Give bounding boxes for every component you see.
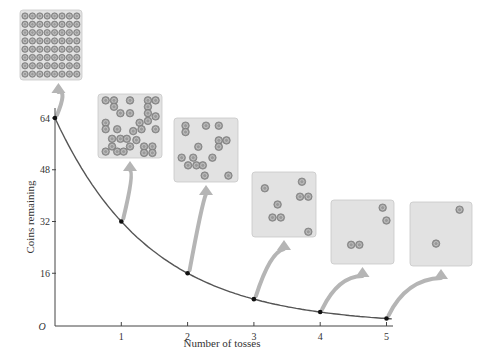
origin-label: O	[38, 321, 45, 332]
coin-decay-chart: 1234516324864 O Number of tosses Coins r…	[0, 0, 491, 364]
data-point	[318, 310, 323, 315]
coin-icon	[37, 29, 43, 35]
coin-trays	[20, 10, 472, 266]
coin-icon	[37, 46, 43, 52]
coin-icon	[201, 172, 209, 180]
coin-icon	[29, 21, 35, 27]
callout-arrow	[256, 249, 284, 296]
coin-icon	[44, 13, 50, 19]
data-point	[119, 219, 124, 224]
coin-icon	[51, 54, 57, 60]
coin-icon	[37, 63, 43, 69]
coin-tray-toss-2	[174, 118, 238, 182]
coin-icon	[29, 46, 35, 52]
callout-arrow	[123, 170, 131, 219]
coin-icon	[102, 125, 110, 133]
coin-icon	[51, 71, 57, 77]
arrowhead-icon	[123, 161, 137, 171]
coin-icon	[209, 154, 217, 162]
coin-icon	[223, 137, 231, 145]
coin-icon	[59, 29, 65, 35]
y-tick-label: 32	[40, 216, 50, 227]
coin-icon	[66, 63, 72, 69]
coin-icon	[66, 71, 72, 77]
coin-icon	[37, 13, 43, 19]
arrowhead-icon	[51, 83, 65, 93]
coin-icon	[261, 184, 269, 192]
coin-icon	[74, 29, 80, 35]
coin-icon	[44, 63, 50, 69]
coin-icon	[22, 46, 28, 52]
x-tick-label: 5	[384, 331, 389, 342]
callout-arrow	[57, 92, 62, 115]
coin-icon	[144, 109, 152, 117]
y-tick-label: 48	[40, 164, 50, 175]
coin-icon	[110, 103, 118, 111]
coin-icon	[44, 46, 50, 52]
coin-icon	[113, 125, 121, 133]
coin-icon	[29, 13, 35, 19]
coin-icon	[44, 21, 50, 27]
coin-icon	[51, 46, 57, 52]
coin-icon	[456, 206, 464, 214]
coin-icon	[126, 109, 134, 117]
coin-icon	[44, 54, 50, 60]
callout-arrow	[389, 278, 442, 316]
coin-tray-toss-3	[252, 172, 316, 237]
coin-tray-toss-5	[410, 202, 472, 266]
coin-icon	[225, 172, 233, 180]
coin-icon	[29, 71, 35, 77]
data-point	[53, 116, 58, 121]
coin-icon	[59, 38, 65, 44]
coin-icon	[215, 122, 223, 130]
coin-icon	[59, 54, 65, 60]
coin-icon	[66, 46, 72, 52]
coin-icon	[44, 38, 50, 44]
coin-icon	[59, 21, 65, 27]
coin-icon	[138, 125, 146, 133]
coin-icon	[117, 109, 125, 117]
coin-icon	[123, 135, 131, 143]
coin-icon	[74, 71, 80, 77]
coin-icon	[37, 54, 43, 60]
coin-icon	[29, 38, 35, 44]
coin-icon	[66, 54, 72, 60]
coin-icon	[44, 29, 50, 35]
coin-icon	[432, 240, 440, 248]
coin-icon	[108, 135, 116, 143]
coin-icon	[274, 201, 282, 209]
coin-icon	[29, 63, 35, 69]
coin-icon	[51, 38, 57, 44]
arrowhead-icon	[356, 267, 370, 277]
data-point	[185, 271, 190, 276]
coin-icon	[74, 21, 80, 27]
y-tick-label: 64	[40, 113, 50, 124]
coin-icon	[22, 54, 28, 60]
coin-icon	[178, 154, 186, 162]
coin-icon	[74, 46, 80, 52]
coin-icon	[182, 128, 190, 136]
coin-icon	[305, 193, 313, 201]
coin-icon	[379, 204, 387, 212]
callout-arrow	[190, 194, 206, 270]
coin-icon	[66, 38, 72, 44]
data-point	[384, 316, 389, 321]
coin-icon	[59, 46, 65, 52]
coin-icon	[22, 29, 28, 35]
coin-icon	[102, 97, 110, 105]
y-tick-label: 16	[40, 268, 50, 279]
coin-tray-toss-4	[331, 200, 394, 264]
coin-tray-toss-1	[98, 94, 162, 158]
coin-icon	[74, 13, 80, 19]
coin-icon	[22, 38, 28, 44]
coin-icon	[126, 97, 134, 105]
arrowhead-icon	[434, 269, 448, 279]
coin-icon	[51, 29, 57, 35]
coin-icon	[133, 136, 141, 144]
coin-icon	[215, 143, 223, 151]
tray	[252, 172, 316, 237]
coin-icon	[66, 21, 72, 27]
coin-icon	[195, 143, 203, 151]
coin-icon	[199, 162, 207, 170]
x-tick-label: 1	[119, 331, 124, 342]
